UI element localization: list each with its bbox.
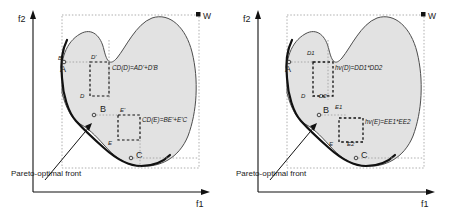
right-formula-hv-d: hv(D)=DD1*DD2: [335, 64, 383, 72]
left-point-B-tick-label: B: [58, 55, 62, 61]
right-point-A-label: A: [285, 64, 291, 74]
left-panel-canvas: f2 f1 W B A D' D CD(D)=AD'+D'B: [0, 0, 225, 212]
right-point-E2-label: E2: [347, 141, 355, 147]
left-y-axis-label: f2: [18, 14, 26, 24]
left-x-axis-label: f1: [196, 199, 204, 209]
panel-crowding-distance: f2 f1 W B A D' D CD(D)=AD'+D'B: [0, 0, 225, 212]
right-y-axis-arrowhead: [255, 10, 261, 19]
right-reference-point-marker: [421, 12, 426, 17]
left-feasible-region: [62, 17, 197, 167]
left-point-Eprime-label: E': [120, 107, 126, 113]
right-y-axis-label: f2: [243, 14, 251, 24]
right-point-D1-label: D1: [307, 50, 315, 56]
left-point-C-label: C: [136, 150, 143, 160]
left-x-axis-arrowhead: [201, 189, 210, 195]
right-formula-hv-e: hv(E)=EE1*EE2: [365, 118, 411, 126]
right-x-axis-arrowhead: [426, 189, 435, 195]
right-point-B-label: B: [323, 105, 329, 115]
left-pareto-front-callout-label: Pareto-optimal front: [11, 169, 82, 178]
left-point-B-label: B: [100, 104, 106, 114]
panel-hypervolume: f2 f1 W A D1 D D2 hv(D)=DD1*DD2 B E1 E: [225, 0, 450, 212]
figure-root: f2 f1 W B A D' D CD(D)=AD'+D'B: [0, 0, 450, 212]
right-pareto-front-callout-label: Pareto-optimal front: [236, 169, 307, 178]
left-formula-cd-e: CD(E)=BE'+E'C: [142, 116, 187, 124]
left-point-Dprime-label: D': [91, 54, 97, 60]
right-reference-point-label: W: [428, 11, 436, 21]
right-point-C-label: C: [361, 150, 368, 160]
left-reference-point-label: W: [203, 11, 211, 21]
right-point-E1-label: E1: [335, 104, 342, 110]
left-reference-point-marker: [196, 12, 201, 17]
right-panel-canvas: f2 f1 W A D1 D D2 hv(D)=DD1*DD2 B E1 E: [225, 0, 450, 212]
right-x-axis-label: f1: [421, 199, 429, 209]
right-point-D2-label: D2: [319, 93, 327, 99]
left-formula-cd-d: CD(D)=AD'+D'B: [112, 64, 158, 72]
left-point-D-label: D: [80, 93, 85, 99]
left-y-axis-arrowhead: [30, 10, 36, 19]
left-point-A-label: A: [60, 64, 66, 74]
right-point-D-label: D: [301, 93, 306, 99]
